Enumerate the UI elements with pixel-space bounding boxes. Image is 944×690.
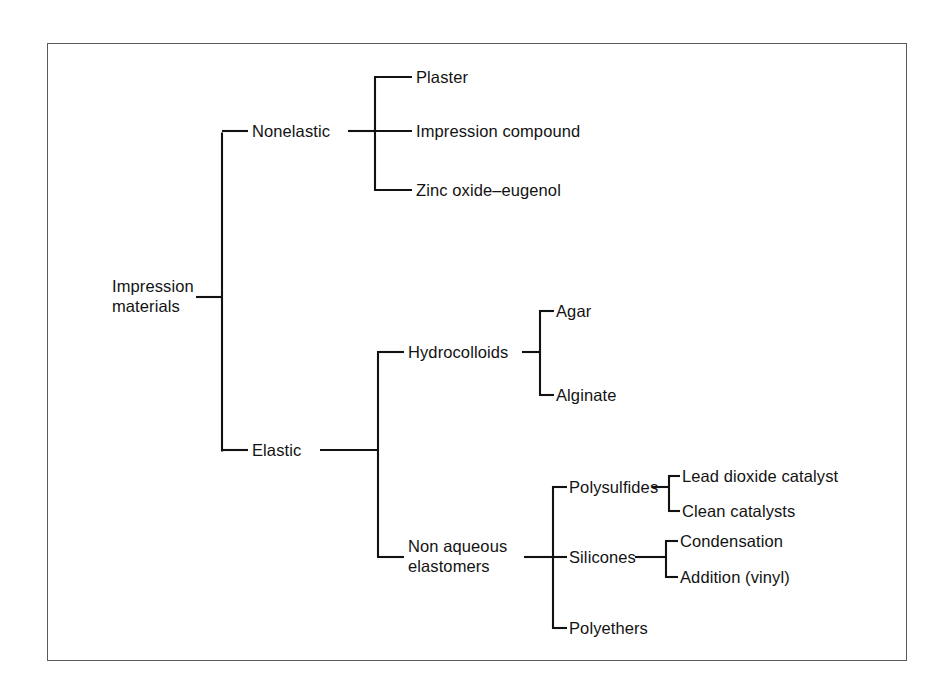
node-polysulfides: Polysulfides [569,478,669,496]
node-label-agar: Agar [556,302,592,320]
connector-group-elastic [378,351,404,558]
node-lead-dioxide-catalyst: Lead dioxide catalyst [682,467,839,485]
node-condensation: Condensation [680,532,783,550]
node-non-aqueous-elastomers: Non aqueous elastomers [408,537,553,575]
node-nonelastic: Nonelastic [252,122,375,140]
node-label-non-aqueous-elastomers: Non aqueous elastomers [408,537,512,575]
node-label-clean-catalysts: Clean catalysts [682,502,795,520]
node-impression-materials: Impression materials [112,277,222,315]
node-label-polysulfides: Polysulfides [569,478,658,496]
connector-group-polysulfides [669,475,680,512]
connector-group-hydrocolloids [540,310,554,396]
connector-group-elastomers [553,486,567,629]
label-line-2: materials [112,297,180,315]
node-label-elastic: Elastic [252,441,301,459]
node-polyethers: Polyethers [569,619,648,637]
node-label-silicones: Silicones [569,548,636,566]
label-line-1: Impression [112,277,194,295]
node-label-condensation: Condensation [680,532,783,550]
node-label-lead-dioxide-catalyst: Lead dioxide catalyst [682,467,839,485]
node-elastic: Elastic [252,441,378,459]
node-label-polyethers: Polyethers [569,619,648,637]
node-impression-compound: Impression compound [416,122,580,140]
connector-group-root [222,131,248,452]
node-clean-catalysts: Clean catalysts [682,502,795,520]
node-label-impression-materials: Impression materials [112,277,198,315]
node-silicones: Silicones [569,548,666,566]
tree-svg: Impression materials Nonelastic Plaster [0,0,944,690]
node-zinc-oxide-eugenol: Zinc oxide–eugenol [416,181,561,199]
node-label-alginate: Alginate [556,386,616,404]
node-plaster: Plaster [416,68,468,86]
node-label-plaster: Plaster [416,68,468,86]
connector-group-silicones [666,540,678,578]
node-alginate: Alginate [556,386,616,404]
node-hydrocolloids: Hydrocolloids [408,343,540,361]
node-label-addition-vinyl: Addition (vinyl) [680,568,790,586]
node-addition-vinyl: Addition (vinyl) [680,568,790,586]
node-label-impression-compound: Impression compound [416,122,580,140]
node-label-hydrocolloids: Hydrocolloids [408,343,508,361]
node-agar: Agar [556,302,592,320]
label-line-1: Non aqueous [408,537,507,555]
classification-diagram: Impression materials Nonelastic Plaster [0,0,944,690]
label-line-2: elastomers [408,557,490,575]
node-label-nonelastic: Nonelastic [252,122,330,140]
connector-group-nonelastic [375,76,412,191]
node-label-zinc-oxide-eugenol: Zinc oxide–eugenol [416,181,561,199]
